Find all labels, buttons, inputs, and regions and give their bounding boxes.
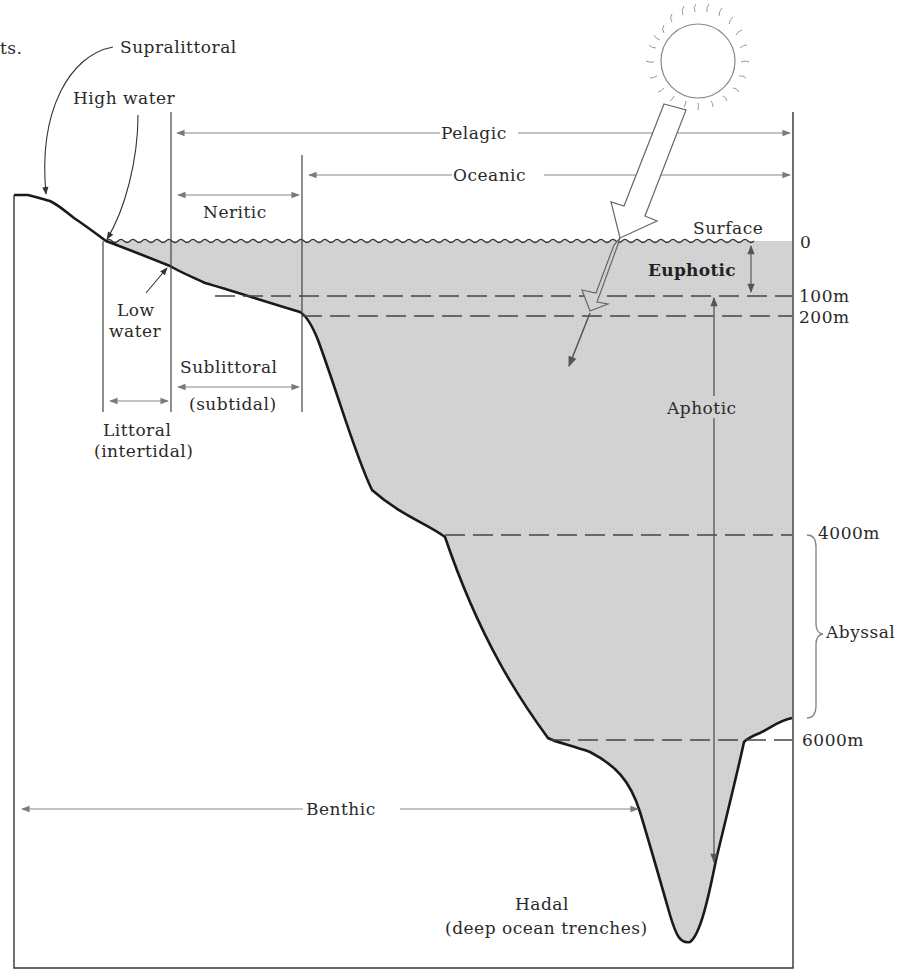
label-surface: Surface [693, 218, 763, 238]
label-low-water-1: Low [117, 300, 155, 320]
ocean-zones-diagram: Pelagic Oceanic Neritic ts. Supralittora… [0, 0, 913, 980]
depth-200m: 200m [799, 307, 850, 327]
label-oceanic: Oceanic [453, 165, 526, 185]
high-water-callout-arrow [107, 115, 138, 239]
label-hadal: Hadal [515, 894, 569, 914]
label-benthic: Benthic [306, 799, 376, 819]
label-supralittoral: Supralittoral [120, 37, 237, 57]
label-intertidal: (intertidal) [94, 441, 193, 461]
depth-0: 0 [800, 232, 811, 252]
supralittoral-callout-arrow [45, 47, 113, 194]
label-euphotic: Euphotic [648, 260, 736, 280]
label-neritic: Neritic [203, 202, 267, 222]
depth-4000m: 4000m [818, 523, 880, 543]
title-fragment: ts. [0, 38, 22, 58]
water-body [106, 241, 792, 942]
label-hadal-sub: (deep ocean trenches) [445, 918, 648, 938]
label-sublittoral: Sublittoral [180, 357, 277, 377]
label-aphotic: Aphotic [666, 398, 737, 418]
low-water-callout-arrow [146, 268, 167, 293]
label-subtidal: (subtidal) [189, 394, 277, 414]
sun-icon [646, 4, 749, 110]
label-littoral: Littoral [103, 420, 171, 440]
label-high-water: High water [73, 88, 176, 108]
depth-6000m: 6000m [802, 730, 864, 750]
label-abyssal: Abyssal [825, 622, 895, 642]
depth-100m: 100m [799, 286, 850, 306]
abyssal-brace [807, 535, 823, 718]
label-low-water-2: water [109, 321, 162, 341]
label-pelagic: Pelagic [441, 123, 507, 143]
